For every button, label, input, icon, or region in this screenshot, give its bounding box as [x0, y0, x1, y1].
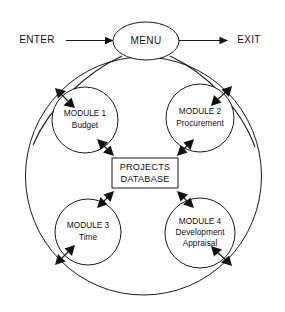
- enter-label: ENTER: [19, 34, 54, 45]
- exit-label: EXIT: [237, 34, 260, 45]
- module-4-label-line1: MODULE 4: [179, 216, 222, 226]
- diagram-canvas: MODULE 1 Budget MODULE 2 Procurement PRO…: [0, 0, 285, 312]
- exit-arrowhead: [220, 37, 229, 44]
- module-1-label-line1: MODULE 1: [64, 108, 107, 118]
- enter-arrowhead: [105, 37, 114, 44]
- diagram-root: MODULE 1 Budget MODULE 2 Procurement PRO…: [0, 0, 285, 312]
- module-2-label-line2: Procurement: [176, 118, 224, 128]
- enter-connector: [66, 37, 114, 44]
- module-3-label-line2: Time: [79, 232, 98, 242]
- module-4-label-line2: Development: [176, 227, 226, 237]
- projects-database-label-line2: DATABASE: [120, 174, 169, 184]
- module-1-label-line2: Budget: [72, 120, 99, 130]
- exit-connector: [179, 37, 228, 44]
- menu-label: MENU: [130, 35, 161, 46]
- module-2-label-line1: MODULE 2: [179, 106, 222, 116]
- module-3-label-line1: MODULE 3: [67, 220, 110, 230]
- projects-database-label-line1: PROJECTS: [120, 162, 171, 172]
